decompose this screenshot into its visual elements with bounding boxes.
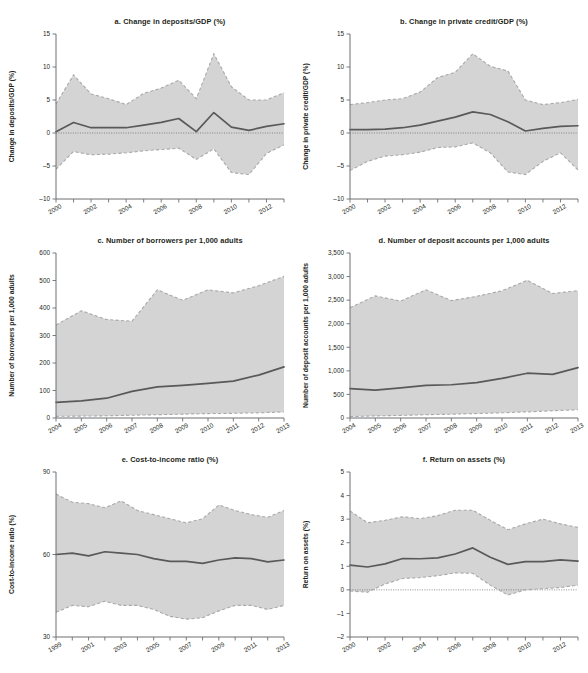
- y-tick-label: 1,500: [328, 344, 344, 351]
- x-tick-label: 2003: [112, 640, 128, 653]
- x-tick-label: 2008: [481, 640, 497, 653]
- y-tick-label: 0: [46, 129, 50, 136]
- confidence-band: [56, 54, 284, 175]
- x-tick-label: 2012: [544, 421, 560, 434]
- panel-c-number-of-borrowers: c. Number of borrowers per 1,000 adultsN…: [0, 233, 294, 452]
- chart-svg-a: a. Change in deposits/GDP (%)Change in d…: [0, 14, 294, 233]
- y-tick-label: 3: [340, 515, 344, 522]
- y-axis-label: Number of borrowers per 1,000 adults: [8, 274, 16, 397]
- x-tick-label: 2006: [446, 202, 462, 215]
- x-tick-label: 2011: [518, 421, 534, 434]
- confidence-band: [350, 280, 578, 416]
- y-tick-label: –1: [337, 610, 345, 617]
- y-tick-label: 10: [43, 63, 51, 70]
- x-tick-label: 2002: [376, 202, 392, 215]
- x-tick-label: 2004: [341, 421, 357, 434]
- x-tick-label: 2006: [152, 202, 168, 215]
- y-tick-label: 2,000: [328, 320, 344, 327]
- x-tick-label: 2012: [551, 202, 567, 215]
- x-tick-label: 2009: [174, 421, 190, 434]
- x-tick-label: 2013: [275, 640, 291, 653]
- y-tick-label: 4: [340, 492, 344, 499]
- y-tick-label: 15: [43, 30, 51, 37]
- x-tick-label: 2010: [493, 421, 509, 434]
- confidence-band: [350, 510, 578, 595]
- x-tick-label: 2008: [442, 421, 458, 434]
- y-tick-label: 5: [46, 96, 50, 103]
- panel-d-number-of-deposit-accounts: d. Number of deposit accounts per 1,000 …: [294, 233, 588, 452]
- x-tick-label: 2000: [341, 640, 357, 653]
- y-tick-label: 0: [340, 414, 344, 421]
- x-tick-label: 2010: [516, 202, 532, 215]
- x-tick-label: 1999: [47, 640, 63, 653]
- panel-title: f. Return on assets (%): [423, 455, 506, 464]
- x-tick-label: 2006: [392, 421, 408, 434]
- y-tick-label: 0: [340, 586, 344, 593]
- y-tick-label: –2: [337, 633, 345, 640]
- y-axis-label: Number of deposit accounts per 1,000 adu…: [302, 263, 310, 408]
- x-tick-label: 2005: [72, 421, 88, 434]
- y-axis-label: Change in deposits/GDP (%): [8, 71, 16, 163]
- x-tick-label: 2010: [199, 421, 215, 434]
- y-tick-label: 400: [39, 304, 50, 311]
- x-tick-label: 2004: [117, 202, 133, 215]
- y-tick-label: 90: [43, 468, 51, 475]
- x-tick-label: 2010: [222, 202, 238, 215]
- x-tick-label: 2000: [341, 202, 357, 215]
- y-tick-label: 1: [340, 563, 344, 570]
- chart-svg-e: e. Cost-to-income ratio (%)Cost-to-incom…: [0, 452, 294, 671]
- figure-multi-panel-bank-indicators: a. Change in deposits/GDP (%)Change in d…: [0, 0, 588, 673]
- y-tick-label: 15: [337, 30, 345, 37]
- panel-title: a. Change in deposits/GDP (%): [115, 17, 226, 26]
- x-tick-label: 2006: [98, 421, 114, 434]
- x-tick-label: 2004: [411, 640, 427, 653]
- x-tick-label: 2007: [417, 421, 433, 434]
- x-tick-label: 2013: [569, 421, 585, 434]
- panel-f-return-on-assets: f. Return on assets (%)Return on assets …: [294, 452, 588, 671]
- chart-svg-b: b. Change in private credit/GDP (%)Chang…: [294, 14, 588, 233]
- y-tick-label: 300: [39, 332, 50, 339]
- y-tick-label: 3,000: [328, 273, 344, 280]
- x-tick-label: 2000: [47, 202, 63, 215]
- y-tick-label: 500: [333, 391, 344, 398]
- y-tick-label: –5: [43, 162, 51, 169]
- panel-title: d. Number of deposit accounts per 1,000 …: [379, 236, 550, 245]
- y-tick-label: 0: [340, 129, 344, 136]
- y-axis-label: Return on assets (%): [302, 521, 310, 589]
- chart-svg-f: f. Return on assets (%)Return on assets …: [294, 452, 588, 671]
- x-tick-label: 2002: [376, 640, 392, 653]
- confidence-band: [56, 276, 284, 416]
- x-tick-label: 2010: [516, 640, 532, 653]
- y-tick-label: –10: [39, 195, 50, 202]
- y-tick-label: 100: [39, 387, 50, 394]
- panel-title: b. Change in private credit/GDP (%): [400, 17, 528, 26]
- x-tick-label: 2005: [366, 421, 382, 434]
- panel-b-change-in-private-credit-gdp: b. Change in private credit/GDP (%)Chang…: [294, 14, 588, 233]
- y-tick-label: 1,000: [328, 367, 344, 374]
- chart-svg-c: c. Number of borrowers per 1,000 adultsN…: [0, 233, 294, 452]
- y-tick-label: 5: [340, 468, 344, 475]
- x-tick-label: 2012: [257, 202, 273, 215]
- x-tick-label: 2006: [446, 640, 462, 653]
- y-tick-label: 500: [39, 277, 50, 284]
- y-tick-label: –10: [333, 195, 344, 202]
- y-tick-label: 2,500: [328, 296, 344, 303]
- panel-title: c. Number of borrowers per 1,000 adults: [97, 236, 242, 245]
- x-tick-label: 2007: [177, 640, 193, 653]
- x-tick-label: 2011: [242, 640, 258, 653]
- x-tick-label: 2012: [250, 421, 266, 434]
- x-tick-label: 2012: [551, 640, 567, 653]
- x-tick-label: 2009: [468, 421, 484, 434]
- y-tick-label: 0: [46, 414, 50, 421]
- x-tick-label: 2008: [481, 202, 497, 215]
- x-tick-label: 2007: [123, 421, 139, 434]
- x-tick-label: 2001: [79, 640, 95, 653]
- x-tick-label: 2005: [145, 640, 161, 653]
- panel-a-change-in-deposits-gdp: a. Change in deposits/GDP (%)Change in d…: [0, 14, 294, 233]
- y-tick-label: 30: [43, 633, 51, 640]
- panel-e-cost-to-income-ratio: e. Cost-to-income ratio (%)Cost-to-incom…: [0, 452, 294, 671]
- x-tick-label: 2002: [82, 202, 98, 215]
- x-tick-label: 2008: [187, 202, 203, 215]
- x-tick-label: 2009: [210, 640, 226, 653]
- y-tick-label: 2: [340, 539, 344, 546]
